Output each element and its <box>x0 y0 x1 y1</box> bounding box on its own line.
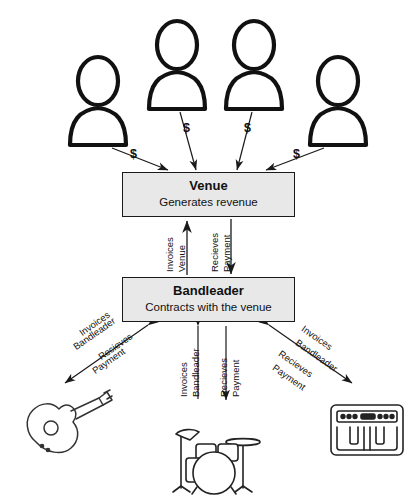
money-label-customer3: $ <box>244 121 251 135</box>
money-label-customer2: $ <box>183 121 190 135</box>
diagram-canvas: Venue Generates revenue Bandleader Contr… <box>0 0 418 503</box>
label-drums-out-line2: Bandleader <box>190 348 201 397</box>
label-drums-in-line2: Payment <box>230 360 241 398</box>
node-bandleader[interactable]: Bandleader Contracts with the venue <box>122 277 295 322</box>
label-recieves-payment-venue-line2: Payment <box>221 235 232 273</box>
label-drums-out-line1: Invoices <box>178 362 189 397</box>
label-invoices-venue-line2: Venue <box>176 245 187 272</box>
bandleader-subtitle: Contracts with the venue <box>145 301 272 315</box>
venue-subtitle: Generates revenue <box>159 196 257 210</box>
keyboard-icon <box>331 405 403 455</box>
venue-title: Venue <box>189 179 227 194</box>
person-icon-4 <box>310 57 366 145</box>
node-venue[interactable]: Venue Generates revenue <box>122 172 295 217</box>
person-icon-3 <box>226 21 282 109</box>
money-label-customer4: $ <box>293 147 300 161</box>
money-label-customer1: $ <box>130 147 137 161</box>
label-invoices-venue-line1: Invoices <box>164 237 175 272</box>
bandleader-title: Bandleader <box>173 284 244 299</box>
person-icon-2 <box>149 21 205 109</box>
label-recieves-payment-venue-line1: Recieves <box>209 233 220 272</box>
guitar-icon <box>27 390 112 453</box>
person-icon-1 <box>70 57 126 145</box>
drums-icon <box>173 430 260 494</box>
label-drums-in-line1: Recieves <box>218 358 229 397</box>
arrow-customer1-venue <box>112 148 168 170</box>
